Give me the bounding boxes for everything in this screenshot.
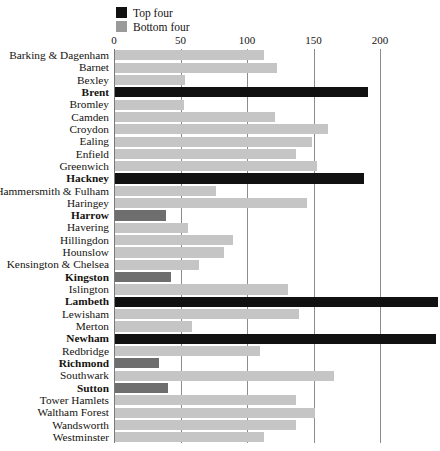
bar xyxy=(115,161,317,171)
bar-row: Westminster xyxy=(0,431,440,444)
bar-row: Richmond xyxy=(0,357,440,370)
bar xyxy=(115,272,171,282)
bar-row-label: Ealing xyxy=(0,135,109,148)
bar-row: Sutton xyxy=(0,382,440,395)
bar xyxy=(115,358,159,368)
bar-row: Hillingdon xyxy=(0,234,440,247)
bar xyxy=(115,186,216,196)
bar-row-label: Bexley xyxy=(0,74,109,87)
bar xyxy=(115,173,364,183)
bar xyxy=(115,284,288,294)
bar-row: Waltham Forest xyxy=(0,406,440,419)
bar-row: Kensington & Chelsea xyxy=(0,258,440,271)
bar-row: Lewisham xyxy=(0,308,440,321)
bar-row-label: Southwark xyxy=(0,369,109,382)
bar-row: Redbridge xyxy=(0,345,440,358)
bar xyxy=(115,235,233,245)
bar-rows: Barking & DagenhamBarnetBexleyBrentBroml… xyxy=(0,0,440,451)
bar xyxy=(115,260,199,270)
bar-row: Merton xyxy=(0,320,440,333)
bar-row-label: Lambeth xyxy=(0,295,109,308)
bar-row: Tower Hamlets xyxy=(0,394,440,407)
bar-row: Enfield xyxy=(0,148,440,161)
bar xyxy=(115,432,264,442)
bar xyxy=(115,395,296,405)
bar-row-label: Kingston xyxy=(0,271,109,284)
bar-row-label: Greenwich xyxy=(0,160,109,173)
bar-row-label: Lewisham xyxy=(0,308,109,321)
bar-row: Bromley xyxy=(0,98,440,111)
bar-row-label: Havering xyxy=(0,221,109,234)
bar-row-label: Tower Hamlets xyxy=(0,394,109,407)
bar xyxy=(115,420,296,430)
bar xyxy=(115,112,275,122)
bar xyxy=(115,124,328,134)
bar-row: Barking & Dagenham xyxy=(0,49,440,62)
bar-row: Newham xyxy=(0,332,440,345)
bar xyxy=(115,100,184,110)
bar-row: Kingston xyxy=(0,271,440,284)
bar xyxy=(115,50,264,60)
bar-row-label: Harrow xyxy=(0,209,109,222)
bar-row-label: Croydon xyxy=(0,123,109,136)
bar xyxy=(115,247,224,257)
bar-row: Hackney xyxy=(0,172,440,185)
bar-row: Havering xyxy=(0,221,440,234)
bar-row: Ealing xyxy=(0,135,440,148)
bar xyxy=(115,309,299,319)
bar-row-label: Hillingdon xyxy=(0,234,109,247)
bar-row-label: Merton xyxy=(0,320,109,333)
bar xyxy=(115,149,296,159)
bar-row-label: Barnet xyxy=(0,61,109,74)
bar-row-label: Islington xyxy=(0,283,109,296)
bar xyxy=(115,408,315,418)
bar-row-label: Barking & Dagenham xyxy=(0,49,109,62)
bar-row: Southwark xyxy=(0,369,440,382)
bar-row-label: Haringey xyxy=(0,197,109,210)
bar-row-label: Hackney xyxy=(0,172,109,185)
bar-row-label: Hammersmith & Fulham xyxy=(0,185,109,198)
bar-row: Greenwich xyxy=(0,160,440,173)
bar xyxy=(115,334,436,344)
bar-row-label: Enfield xyxy=(0,148,109,161)
bar-chart: Top fourBottom four 050100150200 Barking… xyxy=(0,0,440,451)
bar-row-label: Hounslow xyxy=(0,246,109,259)
bar xyxy=(115,210,166,220)
bar xyxy=(115,383,168,393)
bar-row-label: Kensington & Chelsea xyxy=(0,258,109,271)
bar xyxy=(115,63,277,73)
bar-row-label: Sutton xyxy=(0,382,109,395)
bar-row-label: Bromley xyxy=(0,98,109,111)
bar xyxy=(115,198,307,208)
bar-row: Camden xyxy=(0,111,440,124)
bar-row: Bexley xyxy=(0,74,440,87)
bar xyxy=(115,346,260,356)
bar-row: Croydon xyxy=(0,123,440,136)
bar-row-label: Wandsworth xyxy=(0,419,109,432)
bar-row: Islington xyxy=(0,283,440,296)
bar-row: Brent xyxy=(0,86,440,99)
bar xyxy=(115,321,192,331)
bar-row: Hammersmith & Fulham xyxy=(0,185,440,198)
bar-row-label: Camden xyxy=(0,111,109,124)
bar xyxy=(115,223,188,233)
bar-row: Haringey xyxy=(0,197,440,210)
bar-row: Harrow xyxy=(0,209,440,222)
bar-row: Barnet xyxy=(0,61,440,74)
bar-row-label: Westminster xyxy=(0,431,109,444)
bar-row-label: Waltham Forest xyxy=(0,406,109,419)
bar xyxy=(115,371,334,381)
bar-row-label: Newham xyxy=(0,332,109,345)
bar xyxy=(115,75,185,85)
bar-row: Lambeth xyxy=(0,295,440,308)
bar xyxy=(115,137,312,147)
bar-row-label: Redbridge xyxy=(0,345,109,358)
bar-row: Wandsworth xyxy=(0,419,440,432)
bar-row-label: Brent xyxy=(0,86,109,99)
bar xyxy=(115,87,368,97)
bar-row: Hounslow xyxy=(0,246,440,259)
bar xyxy=(115,297,438,307)
bar-row-label: Richmond xyxy=(0,357,109,370)
